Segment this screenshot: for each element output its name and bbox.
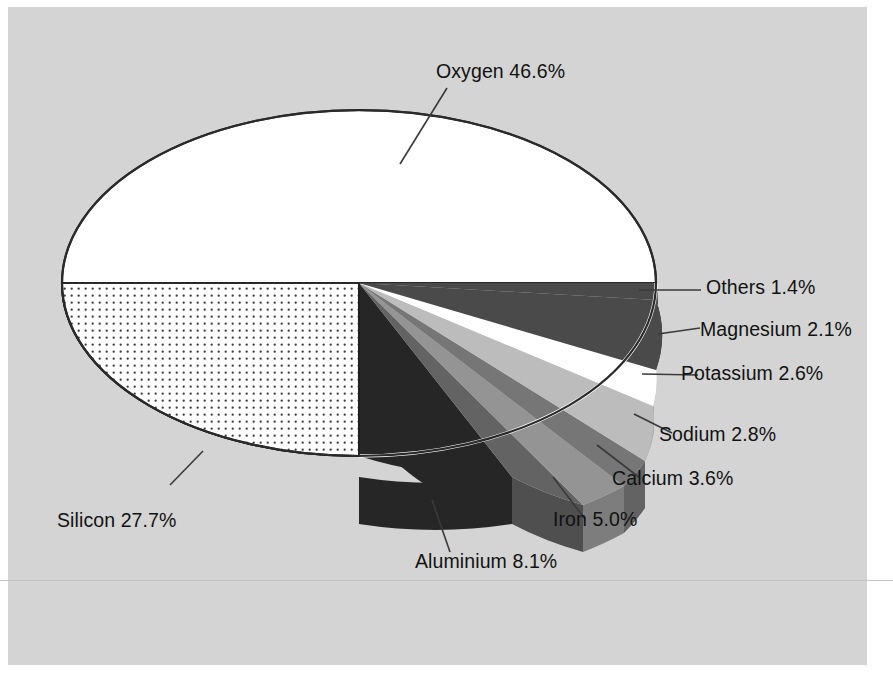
slice-label-oxygen: Oxygen 46.6%	[436, 60, 565, 83]
pie-chart-graphic	[0, 0, 893, 698]
scan-seam-line	[0, 580, 893, 581]
slice-label-calcium: Calcium 3.6%	[612, 467, 734, 490]
slice-side-aluminium-body	[359, 477, 512, 530]
leader-line-silicon	[170, 451, 203, 485]
slice-label-potassium: Potassium 2.6%	[681, 362, 823, 385]
slice-label-sodium: Sodium 2.8%	[659, 423, 776, 446]
slice-label-iron: Iron 5.0%	[553, 508, 637, 531]
slice-label-aluminium: Aluminium 8.1%	[415, 550, 557, 573]
slice-top-silicon	[62, 283, 359, 456]
slice-label-magnesium: Magnesium 2.1%	[700, 318, 852, 341]
slice-label-others: Others 1.4%	[706, 276, 815, 299]
scanned-page: Oxygen 46.6% Others 1.4% Magnesium 2.1% …	[0, 0, 893, 698]
slice-top-oxygen	[62, 110, 656, 283]
leader-line-magnesium	[658, 328, 700, 334]
slice-label-silicon: Silicon 27.7%	[57, 509, 176, 532]
